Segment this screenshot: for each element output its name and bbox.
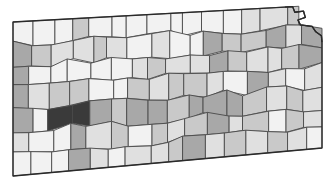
- county-r4-c9: [169, 73, 184, 100]
- county-r6-c11: [207, 112, 229, 134]
- county-r2-c9: [170, 31, 190, 59]
- county-r3-c4: [67, 59, 91, 82]
- county-r7-c13: [246, 130, 268, 155]
- county-r7-c3: [52, 150, 69, 173]
- county-r6-c8: [152, 123, 168, 146]
- county-r1-c2: [33, 20, 55, 46]
- county-r2-c2: [32, 45, 52, 67]
- county-r2-c11: [203, 31, 222, 56]
- county-r7-c2: [31, 152, 52, 175]
- county-r1-c6: [112, 16, 126, 38]
- county-r1-c13: [242, 8, 260, 34]
- county-r5-c1: [13, 108, 33, 133]
- county-r1-c4: [73, 18, 89, 41]
- county-r5-c15: [287, 86, 303, 112]
- county-r5-c7: [127, 98, 148, 126]
- county-r2-c1: [13, 41, 32, 67]
- county-r7-c6: [108, 147, 125, 168]
- county-r2-c12: [222, 33, 241, 52]
- county-r1-c7: [126, 15, 147, 38]
- county-r5-c4: [73, 101, 90, 126]
- county-r2-c6: [107, 37, 127, 59]
- county-r4-c5: [89, 79, 114, 101]
- county-r7-c7: [125, 146, 151, 166]
- county-r4-c6: [114, 78, 128, 99]
- county-r6-c12: [229, 116, 242, 133]
- county-r2-c10: [190, 31, 203, 56]
- county-r7-c12: [224, 130, 246, 157]
- kansas-county-map-svg: [0, 0, 331, 182]
- county-r5-c14: [267, 86, 287, 111]
- county-r1-c12: [223, 9, 241, 34]
- county-r6-c2: [29, 130, 54, 151]
- county-r7-c5: [90, 148, 108, 169]
- county-r6-c1: [13, 133, 29, 152]
- county-r7-c16: [307, 127, 322, 149]
- county-r7-c8: [151, 142, 168, 163]
- county-r5-c16: [303, 87, 322, 112]
- county-r1-c5: [89, 17, 112, 37]
- county-r6-c4: [71, 123, 86, 149]
- county-r5-c2: [33, 108, 48, 132]
- county-r2-c8: [152, 31, 170, 59]
- county-r4-c10: [184, 73, 207, 97]
- county-r2-c4: [73, 36, 94, 63]
- county-r7-c10: [183, 135, 206, 161]
- county-r2-c7: [127, 34, 152, 60]
- county-r2-c16: [302, 25, 322, 48]
- county-r1-c11: [202, 10, 224, 33]
- county-r3-c1: [13, 66, 29, 84]
- county-r6-c14: [269, 109, 286, 132]
- county-r4-c3: [49, 81, 69, 109]
- county-r6-c7: [128, 124, 152, 146]
- county-r3-c10: [190, 55, 209, 73]
- county-r4-c2: [28, 83, 49, 109]
- county-r3-c15: [282, 44, 299, 69]
- county-r6-c16: [304, 111, 322, 128]
- county-r4-c7: [128, 78, 150, 100]
- county-r3-c14: [268, 47, 282, 73]
- county-r3-c7: [132, 58, 147, 80]
- county-r5-c8: [148, 100, 167, 124]
- county-r7-c14: [268, 132, 288, 153]
- county-r3-c12: [228, 51, 247, 72]
- choropleth-map-figure: [0, 0, 331, 182]
- county-r6-c6: [111, 121, 128, 149]
- county-r3-c6: [111, 57, 132, 80]
- counties-layer: [13, 6, 322, 176]
- county-r7-c4: [69, 148, 91, 171]
- county-r6-c5: [86, 121, 112, 149]
- county-r4-c1: [13, 85, 28, 109]
- county-r3-c2: [29, 66, 51, 84]
- county-r7-c1: [13, 152, 31, 176]
- county-r7-c11: [205, 133, 224, 159]
